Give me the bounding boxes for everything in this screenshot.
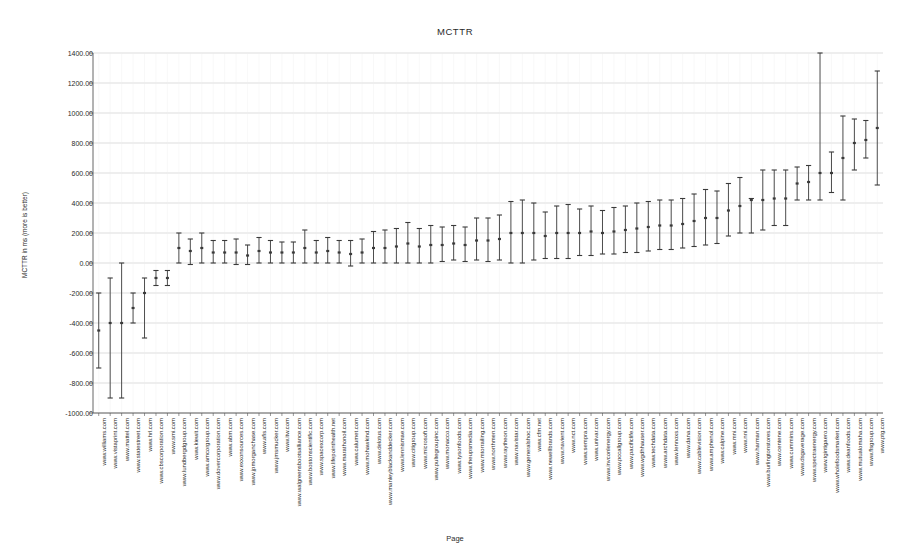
data-point-group	[840, 116, 845, 200]
data-point-group	[463, 227, 468, 262]
data-point-marker	[784, 197, 787, 199]
x-axis-tick-label: www.amcorgroup.com	[204, 418, 210, 476]
data-point-group	[669, 200, 674, 250]
data-point-marker	[681, 223, 684, 225]
data-point-marker	[635, 227, 638, 229]
x-axis-tick-label: www.sempra.com	[582, 418, 588, 465]
data-point-marker	[212, 251, 215, 253]
data-point-marker	[590, 230, 593, 232]
data-point-marker	[235, 251, 238, 253]
data-point-marker	[372, 247, 375, 249]
data-point-marker	[475, 239, 478, 241]
data-point-marker	[819, 172, 822, 174]
y-axis-tick-label: -1000.00	[65, 410, 93, 417]
data-point-group	[165, 271, 170, 286]
x-axis-tick-label: www.walgreensbootsalliance.com	[296, 418, 302, 506]
data-point-marker	[670, 224, 673, 226]
data-point-marker	[223, 251, 226, 253]
x-axis-tick-label: www.nni.com	[742, 418, 748, 453]
data-point-group	[382, 230, 387, 263]
data-point-group	[760, 170, 765, 230]
data-point-group	[875, 71, 880, 185]
x-axis-tick-label: www.navistar.com	[513, 418, 519, 465]
data-point-marker	[704, 217, 707, 219]
data-point-group	[577, 209, 582, 256]
data-point-group	[279, 242, 284, 263]
x-axis-tick-label: www.pccallgroup.com	[616, 418, 622, 475]
data-point-marker	[487, 239, 490, 241]
x-axis-tick-label: www.mutualomaha.com	[857, 418, 863, 481]
data-point-marker	[555, 232, 558, 234]
data-point-group	[108, 278, 113, 398]
x-axis-tick-label: www.monacco.com	[444, 418, 450, 469]
chart-container: MCTTR MCTTR in ms (more is better) 1400.…	[0, 0, 910, 559]
data-point-group	[359, 239, 364, 263]
x-axis-tick-label: www.smi.com	[170, 418, 176, 454]
x-axis-tick-label: www.vistaprint.com	[112, 418, 118, 468]
data-point-marker	[750, 199, 753, 201]
chart-title: MCTTR	[0, 26, 910, 37]
x-axis-tick-label: www.mohawkind.com	[364, 418, 370, 475]
x-axis-tick-label: www.williams.com	[101, 418, 107, 466]
data-point-marker	[406, 242, 409, 244]
x-axis-tick-label: www.generalshoc.com	[525, 418, 531, 477]
data-point-group	[211, 241, 216, 264]
data-point-marker	[361, 251, 364, 253]
data-point-group	[119, 263, 124, 398]
data-point-group	[268, 241, 273, 264]
data-point-marker	[532, 232, 535, 234]
x-axis-tick-label: www.harman.com	[754, 418, 760, 465]
data-point-group	[497, 215, 502, 260]
data-point-group	[863, 121, 868, 159]
x-axis-tick-label: www.kiewit.com	[193, 418, 199, 460]
data-point-marker	[349, 253, 352, 255]
x-axis-tick-label: www.lifepointhealth.net	[330, 418, 336, 478]
data-point-marker	[189, 250, 192, 252]
data-point-marker	[612, 230, 615, 232]
x-axis-tick-label: www.northmen.com	[490, 418, 496, 470]
x-axis-tick-label: www.spacexcorp.com	[318, 418, 324, 475]
data-point-group	[440, 227, 445, 262]
x-axis-tick-label: www.tgintigaero.com	[822, 418, 828, 472]
data-point-group	[703, 190, 708, 246]
data-point-marker	[395, 245, 398, 247]
data-point-group	[646, 202, 651, 252]
x-axis-tick-label: www.manleyblackanddecker.com	[387, 418, 393, 505]
data-point-group	[302, 230, 307, 263]
data-point-marker	[200, 247, 203, 249]
x-axis-tick-label: www.lundbergdgroup.com	[181, 418, 187, 486]
data-point-marker	[97, 329, 100, 331]
x-axis-tick-label: www.wholefoodsmarket.com	[834, 418, 840, 493]
x-axis-tick-label: www.navient.com	[559, 418, 565, 464]
data-point-group	[337, 241, 342, 264]
data-point-marker	[658, 224, 661, 226]
y-axis-tick-labels: 1400.001200.001000.00800.00600.00400.002…	[44, 0, 93, 559]
data-point-group	[130, 293, 135, 323]
x-axis-tick-label: www.nct.com	[570, 418, 576, 453]
data-point-marker	[578, 232, 581, 234]
x-axis-tick-label: www.bostonscientific.com	[307, 418, 313, 485]
data-point-marker	[567, 232, 570, 234]
data-point-marker	[326, 250, 329, 252]
x-axis-tick-label: www.citigroup.com	[410, 418, 416, 467]
x-axis-tick-label: www.lennoxs.com	[673, 418, 679, 465]
data-point-group	[737, 178, 742, 234]
data-point-group	[96, 293, 101, 368]
data-point-group	[543, 212, 548, 259]
data-point-group	[680, 199, 685, 249]
data-point-group	[726, 184, 731, 237]
x-axis-tick-label: www.pacificlife.com	[628, 418, 634, 469]
data-point-group	[714, 191, 719, 244]
data-point-marker	[830, 172, 833, 174]
data-point-group	[428, 226, 433, 264]
x-axis-tick-label: www.dsgaverage.com	[799, 418, 805, 476]
data-point-group	[508, 202, 513, 264]
data-point-group	[554, 206, 559, 259]
x-axis-tick-label: www.abm.com	[227, 418, 233, 456]
data-point-marker	[761, 199, 764, 201]
data-point-group	[795, 167, 800, 200]
x-axis-tick-label: www.calumet.com	[353, 418, 359, 466]
data-point-group	[256, 238, 261, 264]
data-point-marker	[841, 157, 844, 159]
data-point-marker	[715, 217, 718, 219]
